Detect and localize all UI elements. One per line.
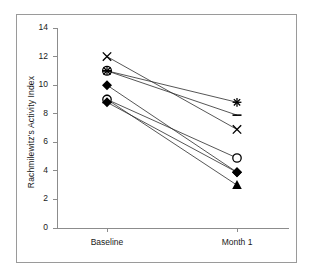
plot-area [17, 15, 298, 264]
data-point-x-cross [103, 52, 111, 60]
chart-frame: Rachmilewitz's Activity Index 0246810121… [16, 14, 297, 263]
data-point-open-circle [233, 154, 241, 162]
axis-lines [57, 28, 289, 228]
figure-canvas: Rachmilewitz's Activity Index 0246810121… [0, 0, 313, 277]
data-point-filled-triangle [232, 180, 242, 189]
series-lines [107, 57, 237, 186]
data-point-filled-diamond [232, 167, 242, 177]
data-point-filled-diamond [102, 80, 112, 90]
data-point-x-cross [233, 125, 241, 133]
axis-tick-marks [53, 28, 237, 232]
data-point-asterisk [233, 98, 242, 107]
